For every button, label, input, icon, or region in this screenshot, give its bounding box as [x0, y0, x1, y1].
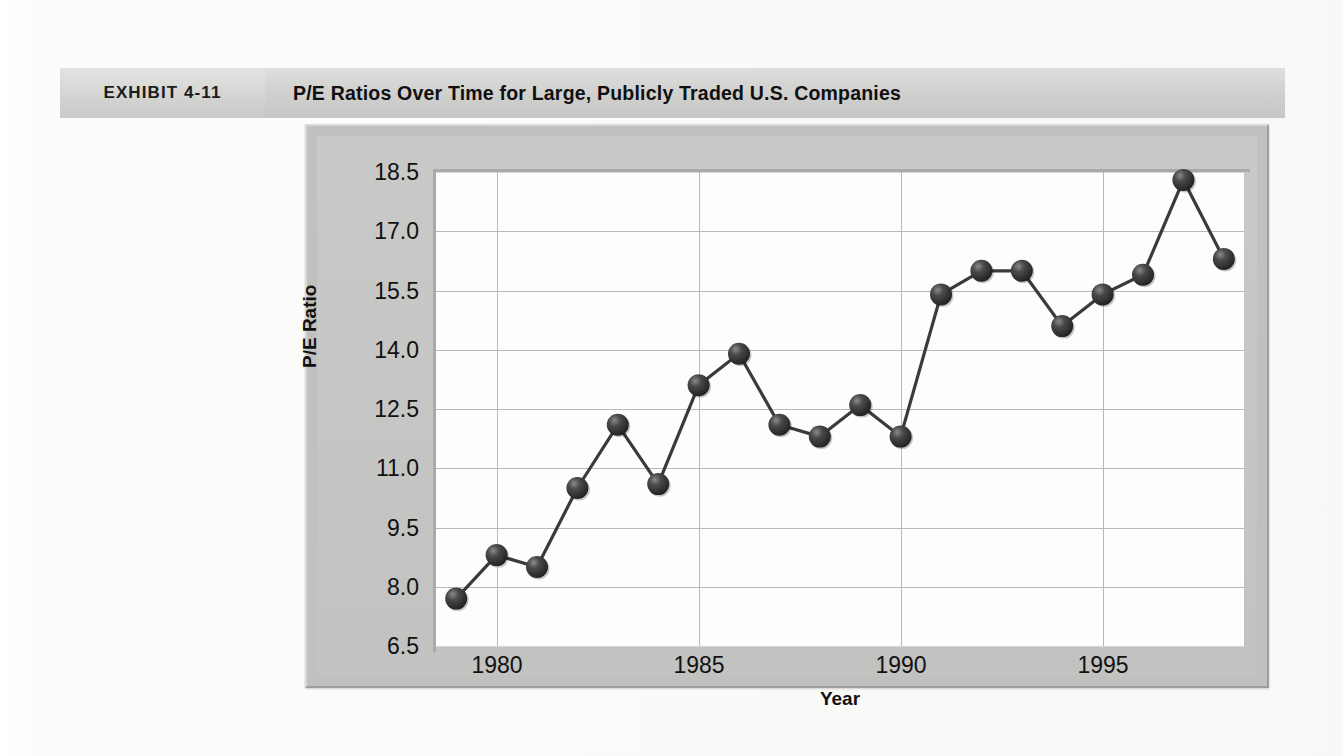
data-point-shadow — [810, 427, 832, 449]
data-point-shadow — [608, 415, 630, 437]
data-point-shadow — [1214, 249, 1236, 271]
x-axis-tick-labels: 1980198519901995 — [436, 652, 1244, 686]
page-background: EXHIBIT 4-11 P/E Ratios Over Time for La… — [0, 0, 1343, 756]
exhibit-header: EXHIBIT 4-11 P/E Ratios Over Time for La… — [60, 68, 1285, 118]
data-point-shadow — [1174, 170, 1196, 192]
y-tick-label-12-5: 12.5 — [374, 396, 419, 423]
chart-panel: P/E Ratio 6.58.09.511.012.514.015.517.01… — [305, 124, 1269, 688]
y-tick-label-18-5: 18.5 — [374, 159, 419, 186]
exhibit-title: P/E Ratios Over Time for Large, Publicly… — [265, 68, 1285, 118]
data-point-shadow — [891, 427, 913, 449]
y-tick-label-11-0: 11.0 — [376, 455, 419, 482]
y-tick-label-8-0: 8.0 — [387, 574, 419, 601]
data-point-shadow — [770, 415, 792, 437]
data-point-shadow — [447, 589, 469, 611]
plot-wrapper — [436, 172, 1244, 646]
data-point-shadow — [1012, 261, 1034, 283]
data-point-shadow — [1093, 285, 1115, 307]
y-axis-tick-labels: 6.58.09.511.012.514.015.517.018.5 — [317, 172, 429, 646]
x-tick-label-1990: 1990 — [875, 652, 926, 679]
data-point-shadow — [1053, 317, 1075, 339]
chart-inner-panel: P/E Ratio 6.58.09.511.012.514.015.517.01… — [317, 136, 1257, 676]
y-tick-label-14-0: 14.0 — [374, 337, 419, 364]
data-point-shadow — [568, 479, 590, 501]
x-axis-title: Year — [436, 688, 1244, 710]
series-line — [456, 180, 1224, 599]
y-tick-label-6-5: 6.5 — [387, 633, 419, 660]
data-point-shadow — [851, 396, 873, 418]
data-point-shadow — [730, 344, 752, 366]
x-tick-label-1980: 1980 — [471, 652, 522, 679]
line-series — [436, 172, 1244, 646]
y-tick-label-15-5: 15.5 — [374, 278, 419, 305]
y-tick-label-9-5: 9.5 — [387, 515, 419, 542]
data-point-shadow — [649, 475, 671, 497]
x-tick-label-1985: 1985 — [673, 652, 724, 679]
y-tick-label-17-0: 17.0 — [374, 218, 419, 245]
data-point-shadow — [528, 558, 550, 580]
gridline-y-6-5 — [436, 646, 1244, 647]
data-point-shadow — [972, 261, 994, 283]
data-point-shadow — [1134, 265, 1156, 287]
data-point-shadow — [932, 285, 954, 307]
x-tick-label-1995: 1995 — [1077, 652, 1128, 679]
data-point-shadow — [487, 546, 509, 568]
data-point-shadow — [689, 376, 711, 398]
exhibit-tag: EXHIBIT 4-11 — [60, 68, 265, 118]
